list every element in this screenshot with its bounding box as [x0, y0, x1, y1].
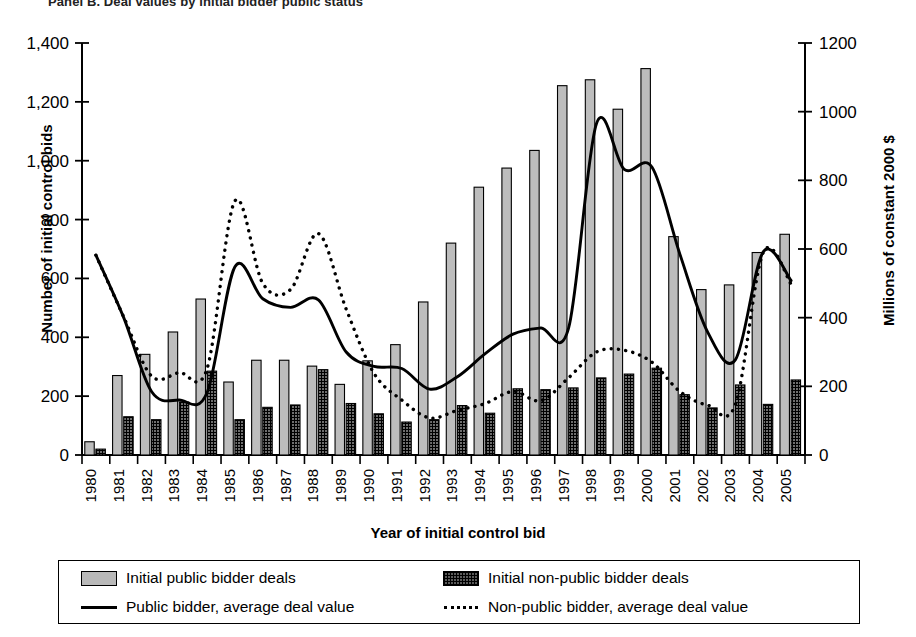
bar-public-1986	[252, 360, 261, 455]
x-axis-tick-label: 1999	[610, 469, 627, 502]
bar-nonpublic-1990	[374, 414, 383, 455]
x-axis-tick-label: 2001	[666, 469, 683, 502]
legend-label-nonpublic-line: Non-public bidder, average deal value	[488, 598, 748, 616]
bar-public-1995	[502, 168, 511, 455]
x-axis-tick-label: 1998	[582, 469, 599, 502]
bar-nonpublic-1987	[291, 405, 300, 455]
x-axis-tick-label: 2002	[694, 469, 711, 502]
x-axis-tick-label: 2004	[749, 469, 766, 502]
bar-nonpublic-1991	[402, 422, 411, 455]
bar-nonpublic-1980	[96, 449, 105, 455]
chart-plot-area: 02004006008001,0001,2001,400020040060080…	[0, 0, 916, 637]
bar-public-1999	[613, 109, 622, 455]
y-axis-right-tick-label: 200	[819, 377, 847, 396]
y-axis-left-tick-label: 400	[41, 328, 69, 347]
bar-nonpublic-1988	[318, 370, 327, 455]
legend-swatch-dotted-line-icon	[443, 600, 479, 615]
chart-figure: Panel B. Deal values by initial bidder p…	[0, 0, 916, 637]
x-axis-tick-label: 2005	[777, 469, 794, 502]
bar-public-1993	[446, 243, 455, 455]
legend-item-public-line: Public bidder, average deal value	[59, 592, 429, 622]
legend-item-nonpublic-bars: Initial non-public bidder deals	[429, 563, 849, 593]
x-axis-tick-label: 1994	[471, 469, 488, 502]
bar-nonpublic-1989	[346, 404, 355, 456]
bar-nonpublic-2000	[652, 368, 661, 455]
bar-public-1992	[418, 302, 427, 455]
bar-public-2001	[669, 237, 678, 455]
y-axis-left-tick-label: 0	[60, 446, 69, 465]
x-axis-tick-label: 1987	[277, 469, 294, 502]
x-axis-tick-label: 1990	[360, 469, 377, 502]
bar-nonpublic-1982	[152, 420, 161, 455]
legend-label-public-bars: Initial public bidder deals	[126, 569, 296, 587]
bar-nonpublic-1999	[624, 374, 633, 455]
bar-nonpublic-1983	[179, 402, 188, 455]
y-axis-right-tick-label: 400	[819, 309, 847, 328]
bar-nonpublic-2005	[791, 380, 800, 455]
bar-public-1994	[474, 187, 483, 455]
bar-public-1991	[391, 345, 400, 455]
x-axis-tick-label: 1997	[555, 469, 572, 502]
x-axis-tick-label: 1992	[416, 469, 433, 502]
y-axis-right-tick-label: 800	[819, 171, 847, 190]
x-axis-tick-label: 1981	[110, 469, 127, 502]
x-axis-tick-label: 1996	[527, 469, 544, 502]
x-axis-tick-label: 1986	[249, 469, 266, 502]
bar-nonpublic-1997	[569, 388, 578, 455]
x-axis-tick-label: 1989	[332, 469, 349, 502]
x-axis-tick-label: 1988	[304, 469, 321, 502]
bar-nonpublic-1993	[457, 406, 466, 455]
bar-public-1988	[307, 366, 316, 455]
chart-legend: Initial public bidder deals Initial non-…	[58, 560, 860, 624]
y-axis-right-tick-label: 1000	[819, 103, 857, 122]
bar-nonpublic-1992	[430, 420, 439, 455]
x-axis-tick-label: 1985	[221, 469, 238, 502]
y-axis-left-tick-label: 1,000	[26, 152, 69, 171]
y-axis-left-tick-label: 200	[41, 387, 69, 406]
y-axis-left-tick-label: 1,200	[26, 93, 69, 112]
bar-public-1996	[530, 150, 539, 455]
x-axis-tick-label: 1991	[388, 469, 405, 502]
bar-public-1997	[558, 86, 567, 455]
bar-nonpublic-1981	[124, 417, 133, 455]
legend-label-nonpublic-bars: Initial non-public bidder deals	[488, 569, 689, 587]
bar-nonpublic-1994	[485, 413, 494, 455]
bar-public-1981	[113, 376, 122, 455]
legend-swatch-solid-line-icon	[81, 600, 117, 615]
bar-nonpublic-1985	[235, 420, 244, 455]
bar-nonpublic-1995	[513, 389, 522, 455]
legend-label-public-line: Public bidder, average deal value	[126, 598, 354, 616]
bar-public-1985	[224, 382, 233, 455]
x-axis-tick-label: 1980	[82, 469, 99, 502]
x-axis-tick-label: 2000	[638, 469, 655, 502]
bar-public-2000	[641, 69, 650, 455]
bar-nonpublic-1986	[263, 407, 272, 455]
y-axis-right-tick-label: 1200	[819, 34, 857, 53]
y-axis-left-tick-label: 800	[41, 211, 69, 230]
y-axis-left-tick-label: 1,400	[26, 34, 69, 53]
bar-nonpublic-2002	[708, 408, 717, 455]
y-axis-right-tick-label: 600	[819, 240, 847, 259]
legend-item-nonpublic-line: Non-public bidder, average deal value	[429, 592, 849, 622]
x-axis-tick-label: 2003	[721, 469, 738, 502]
bar-nonpublic-1998	[596, 378, 605, 455]
y-axis-left-tick-label: 600	[41, 269, 69, 288]
legend-swatch-nonpublic-bar-icon	[443, 571, 479, 586]
x-axis-tick-label: 1983	[165, 469, 182, 502]
bar-public-1984	[196, 299, 205, 455]
legend-swatch-public-bar-icon	[81, 571, 117, 586]
legend-item-public-bars: Initial public bidder deals	[59, 563, 429, 593]
bar-public-1990	[363, 361, 372, 455]
bar-public-2003	[724, 285, 733, 455]
bar-nonpublic-2003	[735, 385, 744, 455]
bar-public-1980	[85, 442, 94, 455]
y-axis-right-tick-label: 0	[819, 446, 828, 465]
x-axis-tick-label: 1982	[138, 469, 155, 502]
x-axis-tick-label: 1984	[193, 469, 210, 502]
bar-public-1987	[279, 360, 288, 455]
bar-nonpublic-2004	[763, 404, 772, 455]
bar-public-1989	[335, 384, 344, 455]
bar-public-1983	[168, 332, 177, 455]
x-axis-tick-label: 1995	[499, 469, 516, 502]
x-axis-tick-label: 1993	[443, 469, 460, 502]
